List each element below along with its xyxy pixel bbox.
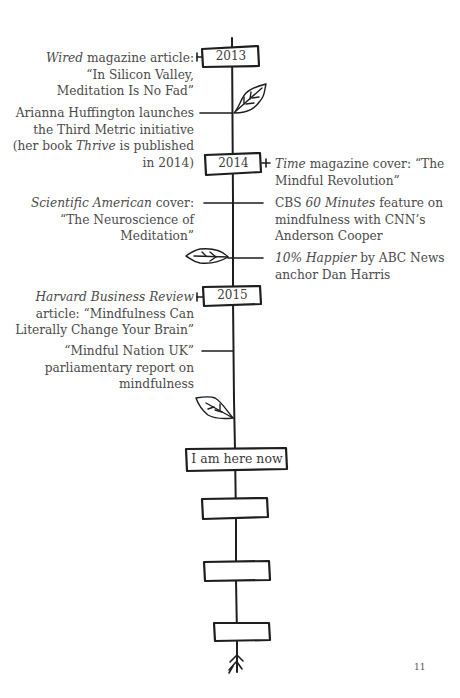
event-cbs: CBS 60 Minutes feature on mindfulness wi… <box>275 195 460 245</box>
empty-box <box>214 623 270 641</box>
event-wired: Wired magazine article: “In Silicon Vall… <box>0 50 194 100</box>
event-hbr: Harvard Business Review article: “Mindfu… <box>0 289 194 339</box>
event-time: Time magazine cover: “The Mindful Revolu… <box>275 156 460 189</box>
year-label-2013: 2013 <box>203 49 259 63</box>
event-10-percent-happier: 10% Happier by ABC News anchor Dan Harri… <box>275 250 460 283</box>
empty-box <box>204 561 270 581</box>
year-label-2014: 2014 <box>206 156 261 170</box>
timeline-page: 2013 2014 2015 I am here now Wired magaz… <box>0 0 460 698</box>
roots-icon <box>229 655 243 673</box>
event-mindful-nation-uk: “Mindful Nation UK” parliamentary report… <box>0 343 194 393</box>
year-label-2015: 2015 <box>204 288 261 302</box>
event-scientific-american: Scientific American cover: “The Neurosci… <box>0 195 194 245</box>
event-huffington: Arianna Huffington launches the Third Me… <box>0 105 194 171</box>
present-label: I am here now <box>187 451 287 466</box>
leaf-icon <box>186 249 228 263</box>
page-number: 11 <box>414 662 425 672</box>
empty-box <box>202 498 268 519</box>
leaf-icon <box>234 84 266 113</box>
leaf-icon <box>196 397 233 419</box>
